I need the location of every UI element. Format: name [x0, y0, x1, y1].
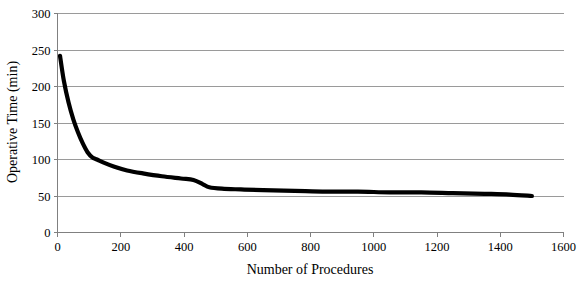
y-tick-label: 150	[32, 117, 51, 131]
y-axis-title: Operative Time (min)	[5, 61, 21, 183]
operative-time-line-chart: 050100150200250300 020040060080010001200…	[0, 0, 580, 282]
gridlines	[58, 14, 564, 197]
y-tick-label: 100	[32, 153, 51, 167]
x-axis-title: Number of Procedures	[247, 262, 374, 277]
y-axis	[54, 14, 58, 233]
y-tick-label: 200	[32, 80, 51, 94]
data-series	[60, 56, 532, 196]
y-tick-label: 300	[32, 7, 51, 21]
y-tick-label: 0	[44, 226, 50, 240]
x-tick-label: 800	[301, 240, 320, 254]
x-axis	[58, 233, 564, 237]
x-tick-label: 200	[111, 240, 130, 254]
x-tick-label: 400	[175, 240, 194, 254]
learning-curve-line	[60, 56, 532, 196]
chart-container: 050100150200250300 020040060080010001200…	[0, 0, 580, 282]
y-axis-tick-labels: 050100150200250300	[32, 7, 51, 240]
x-tick-label: 600	[238, 240, 257, 254]
x-axis-tick-labels: 02004006008001000120014001600	[54, 240, 576, 254]
y-tick-label: 50	[38, 190, 51, 204]
x-tick-label: 1200	[425, 240, 450, 254]
x-tick-label: 1400	[488, 240, 513, 254]
x-tick-label: 1600	[551, 240, 576, 254]
x-tick-label: 0	[54, 240, 60, 254]
y-tick-label: 250	[32, 44, 51, 58]
x-tick-label: 1000	[361, 240, 386, 254]
